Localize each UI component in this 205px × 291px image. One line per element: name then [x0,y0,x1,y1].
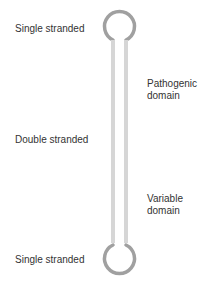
label-pathogenic-line1: Pathogenic [147,78,197,90]
label-pathogenic-line2: domain [147,90,197,102]
label-double-stranded: Double stranded [15,134,88,146]
top-loop [105,11,135,40]
stem [113,40,126,243]
label-single-stranded-top: Single stranded [15,23,85,35]
label-variable-line2: domain [147,205,183,217]
label-variable-domain: Variable domain [147,193,183,217]
label-pathogenic-domain: Pathogenic domain [147,78,197,102]
label-single-stranded-bottom: Single stranded [15,254,85,266]
label-variable-line1: Variable [147,193,183,205]
bottom-loop [105,245,135,274]
